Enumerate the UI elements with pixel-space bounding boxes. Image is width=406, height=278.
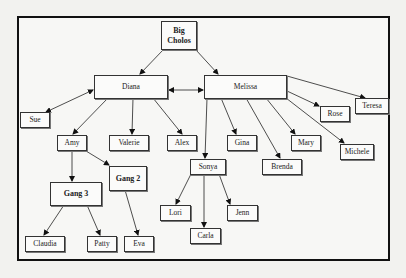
diagram-canvas: Big Cholos Diana Melissa Sue Teresa Rose… <box>0 0 406 278</box>
node-label: Melissa <box>234 83 257 92</box>
node-label: Teresa <box>362 102 381 111</box>
node-eva: Eva <box>124 236 154 252</box>
node-michele: Michele <box>340 144 374 160</box>
node-label: Alex <box>175 139 190 148</box>
node-label: Mary <box>298 139 314 148</box>
node-claudia: Claudia <box>25 236 65 252</box>
node-gang-3: Gang 3 <box>50 182 102 206</box>
node-jenn: Jenn <box>227 205 258 221</box>
node-label: Carla <box>197 232 213 241</box>
node-carla: Carla <box>190 228 221 244</box>
node-label: Diana <box>122 83 140 92</box>
node-label: Rose <box>328 110 343 119</box>
node-label: Valerie <box>118 139 139 148</box>
node-label: Michele <box>345 148 370 157</box>
node-lori: Lori <box>160 205 191 221</box>
node-gang-2: Gang 2 <box>109 166 147 191</box>
node-label: Sonya <box>199 163 218 172</box>
node-patty: Patty <box>87 236 117 252</box>
node-sonya: Sonya <box>190 159 226 175</box>
node-label: Big Cholos <box>167 26 191 44</box>
node-label: Lori <box>169 209 182 218</box>
node-label: Patty <box>94 240 109 249</box>
node-alex: Alex <box>167 135 197 151</box>
node-big-cholos: Big Cholos <box>161 21 197 50</box>
node-amy: Amy <box>57 135 87 151</box>
node-label: Jenn <box>236 209 250 218</box>
node-label: Amy <box>65 139 80 148</box>
node-gina: Gina <box>227 135 257 151</box>
node-mary: Mary <box>291 135 321 151</box>
node-label: Sue <box>29 116 40 125</box>
node-teresa: Teresa <box>355 98 389 114</box>
node-rose: Rose <box>320 106 350 122</box>
node-label: Gang 2 <box>116 174 141 183</box>
node-label: Gina <box>235 139 250 148</box>
node-label: Gang 3 <box>64 189 89 198</box>
node-label: Brenda <box>271 163 293 172</box>
node-brenda: Brenda <box>262 159 302 175</box>
node-diana: Diana <box>94 75 168 99</box>
node-sue: Sue <box>20 112 50 128</box>
node-valerie: Valerie <box>109 135 149 151</box>
node-label: Claudia <box>33 240 56 249</box>
node-melissa: Melissa <box>204 75 287 99</box>
node-label: Eva <box>133 240 145 249</box>
